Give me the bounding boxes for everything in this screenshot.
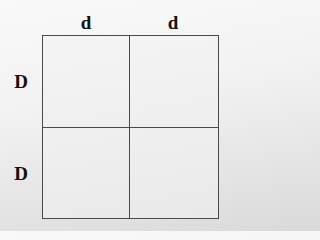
horizontal-divider <box>43 127 218 128</box>
column-header-1: d <box>81 13 92 32</box>
punnett-cell-r2-c1 <box>43 128 129 218</box>
punnett-cell-r2-c2 <box>130 128 218 218</box>
punnett-cell-r1-c1 <box>43 36 129 127</box>
column-header-2: d <box>168 13 179 32</box>
row-header-1: D <box>14 72 28 91</box>
row-header-2: D <box>14 164 28 183</box>
punnett-cell-r1-c2 <box>130 36 218 127</box>
punnett-square-grid <box>42 35 219 219</box>
